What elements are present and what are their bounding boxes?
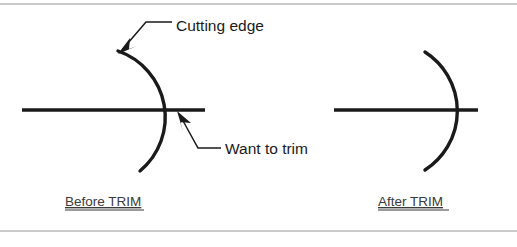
diagram-canvas: Cutting edge Want to trim Before TRIM Af… (0, 0, 517, 247)
trim-diagram-figure: Cutting edge Want to trim Before TRIM Af… (0, 0, 517, 247)
panel-after-trim (334, 52, 478, 170)
want-to-trim-arrowhead (177, 111, 191, 131)
cutting-edge-label: Cutting edge (176, 17, 264, 34)
caption-before-trim: Before TRIM (65, 194, 141, 209)
want-to-trim-label: Want to trim (225, 140, 308, 157)
panel-before-trim (22, 22, 221, 171)
cutting-edge-arrowhead (118, 38, 137, 54)
want-to-trim-leader (182, 119, 221, 148)
cutting-edge-leader (122, 22, 172, 50)
caption-after-trim: After TRIM (378, 194, 443, 209)
